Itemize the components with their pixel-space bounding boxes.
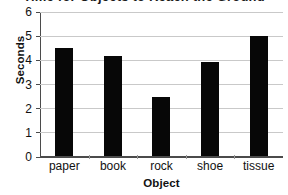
y-tick-label: 2 [0, 102, 32, 116]
y-tick-label: 1 [0, 126, 32, 140]
x-axis-line [40, 156, 283, 157]
x-minor-tick [186, 155, 187, 159]
bar-slot [137, 12, 186, 157]
plot-area: 0123456 [40, 12, 283, 157]
bar-tissue [250, 36, 268, 157]
bar-paper [55, 48, 73, 157]
bar-shoe [201, 62, 219, 157]
bar-slot [89, 12, 138, 157]
x-tick-label-shoe: shoe [197, 159, 223, 173]
bar-chart: Time for Objects to Reach the Ground Sec… [0, 0, 288, 195]
x-axis-title: Object [40, 177, 283, 189]
x-tick-label-rock: rock [150, 159, 173, 173]
x-tick-label-tissue: tissue [243, 159, 274, 173]
y-tick-label: 3 [0, 78, 32, 92]
bar-book [104, 56, 122, 158]
bar-slot [186, 12, 235, 157]
x-minor-tick [234, 155, 235, 159]
x-minor-tick [137, 155, 138, 159]
x-tick-label-paper: paper [49, 159, 80, 173]
x-tick-labels-group: paperbookrockshoetissue [40, 159, 283, 177]
x-tick-label-book: book [100, 159, 126, 173]
bar-rock [152, 97, 170, 157]
bars-group [40, 12, 283, 157]
chart-title: Time for Objects to Reach the Ground [23, 0, 265, 4]
chart-title-cropped: Time for Objects to Reach the Ground [0, 0, 288, 5]
y-tick-label: 4 [0, 53, 32, 67]
y-tick-label: 5 [0, 29, 32, 43]
y-tick-label: 0 [0, 150, 32, 164]
bar-slot [40, 12, 89, 157]
y-tick-label: 6 [0, 5, 32, 19]
x-minor-tick [89, 155, 90, 159]
bar-slot [234, 12, 283, 157]
